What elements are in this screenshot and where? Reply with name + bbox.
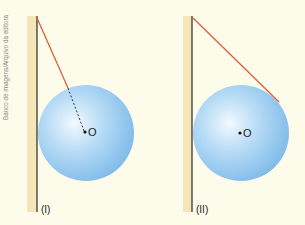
- diagram-canvas: [0, 0, 305, 225]
- center-point-2: [238, 131, 241, 134]
- figure-label-2: (II): [196, 204, 208, 215]
- wall-2: [183, 16, 192, 212]
- wall-1: [27, 16, 37, 212]
- center-label-1: O: [88, 126, 97, 138]
- figure-2: [183, 16, 289, 212]
- figure-1: [27, 16, 134, 212]
- center-label-2: O: [243, 127, 252, 139]
- rope-1: [37, 18, 68, 88]
- center-point-1: [83, 130, 86, 133]
- figure-label-1: (I): [41, 204, 50, 215]
